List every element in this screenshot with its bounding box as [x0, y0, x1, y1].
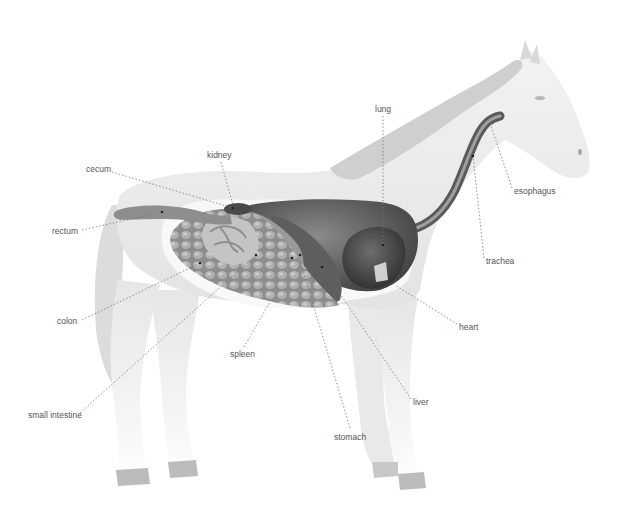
hoof: [168, 460, 198, 478]
label-rectum: rectum: [52, 226, 78, 236]
nostril: [578, 149, 582, 155]
label-spleen: spleen: [230, 349, 255, 359]
hoof: [398, 472, 426, 490]
hind-leg-near: [111, 280, 160, 474]
hoof: [372, 462, 398, 478]
label-esophagus: esophagus: [514, 186, 556, 196]
label-lung: lung: [375, 104, 391, 114]
label-kidney: kidney: [207, 150, 232, 160]
horse-anatomy-diagram: cecum kidney lung rectum esophagus trach…: [0, 0, 619, 527]
horse-illustration: [0, 0, 619, 527]
label-colon: colon: [57, 316, 77, 326]
kidney: [224, 203, 252, 215]
label-small-intestine: small intestine: [28, 410, 82, 420]
eye: [535, 96, 545, 100]
hind-leg-far: [150, 290, 200, 470]
label-stomach: stomach: [334, 432, 366, 442]
label-heart: heart: [459, 322, 478, 332]
hoof: [116, 468, 150, 486]
label-cecum: cecum: [86, 164, 111, 174]
label-trachea: trachea: [486, 256, 514, 266]
label-liver: liver: [413, 397, 429, 407]
